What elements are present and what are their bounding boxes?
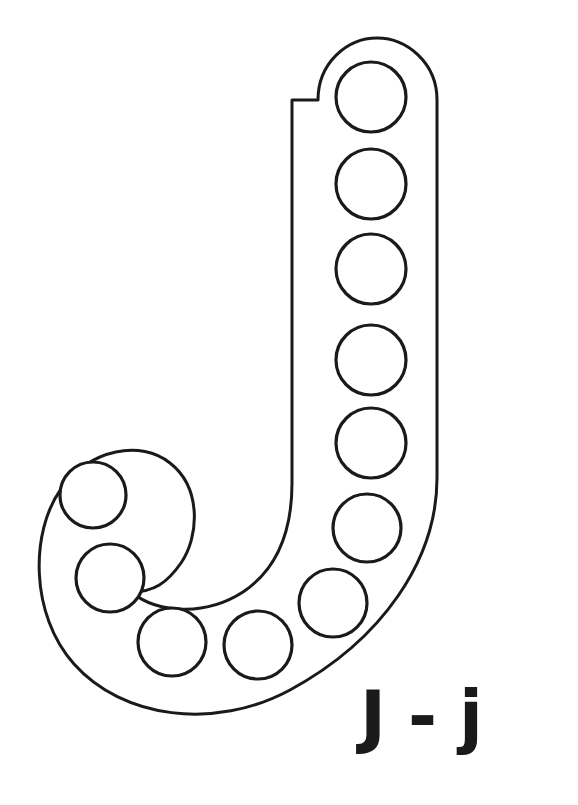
dot-marker-circle[interactable] — [76, 544, 144, 612]
dot-circle-group — [60, 62, 406, 679]
letter-pair-label: J - j — [360, 668, 560, 763]
dot-marker-circle[interactable] — [60, 462, 126, 528]
worksheet-page: J - j — [0, 0, 578, 805]
dot-marker-circle[interactable] — [336, 234, 406, 304]
lowercase-j-glyph: j — [459, 681, 487, 751]
dot-marker-circle[interactable] — [299, 569, 367, 637]
dot-marker-circle[interactable] — [336, 325, 406, 395]
uppercase-j-glyph: J — [360, 681, 390, 751]
dot-marker-circle[interactable] — [336, 149, 406, 219]
dot-marker-circle[interactable] — [336, 408, 406, 478]
separator-dash-glyph: - — [408, 681, 441, 751]
dot-marker-circle[interactable] — [138, 608, 206, 676]
dot-marker-circle[interactable] — [333, 494, 401, 562]
dot-marker-circle[interactable] — [336, 62, 406, 132]
dot-marker-circle[interactable] — [224, 611, 292, 679]
